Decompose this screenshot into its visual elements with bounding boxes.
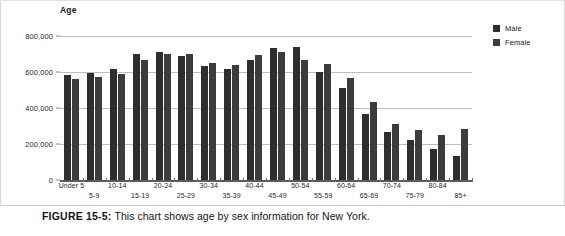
bar-female (141, 60, 148, 180)
bar-female (347, 78, 354, 180)
x-axis-tick-mark (266, 178, 267, 182)
panel-left-border (0, 0, 1, 206)
bar-female (95, 77, 102, 180)
bar-female (186, 54, 193, 180)
y-axis-tick-label: 200,000 (25, 140, 53, 149)
bar-male (384, 132, 391, 180)
bar-male (178, 56, 185, 180)
bar-male (87, 73, 94, 180)
bar-female (301, 60, 308, 180)
y-axis-tick-label: 600,000 (25, 68, 53, 77)
x-axis-label: 70-74 (383, 182, 401, 189)
x-axis-tick-mark (472, 178, 473, 182)
bar-female (164, 54, 171, 180)
figure-caption-text: This chart shows age by sex information … (114, 210, 369, 222)
bar-male (201, 66, 208, 180)
chart-title: Age (60, 5, 77, 15)
bar-male (270, 48, 277, 180)
bar-male (64, 75, 71, 180)
x-axis-tick-mark (129, 178, 130, 182)
bar-male (133, 54, 140, 180)
x-axis-tick-mark (220, 178, 221, 182)
x-axis-label: 85+ (454, 192, 466, 199)
bar-male (362, 114, 369, 180)
bar-male (339, 88, 346, 180)
x-axis-tick-mark (380, 178, 381, 182)
x-axis-tick-mark (152, 178, 153, 182)
x-axis-label: 60-64 (337, 182, 355, 189)
x-axis-label: 30-34 (200, 182, 218, 189)
x-axis-label: 75-79 (406, 192, 424, 199)
x-axis-tick-mark (403, 178, 404, 182)
x-axis-label: 25-29 (177, 192, 195, 199)
x-axis-label: Under 5 (59, 182, 85, 189)
x-axis-label: 80-84 (428, 182, 446, 189)
figure-caption-label: FIGURE 15-5: (42, 210, 112, 222)
bar-female (324, 64, 331, 180)
bar-male (407, 140, 414, 180)
bar-female (438, 135, 445, 180)
bar-female (255, 55, 262, 180)
bar-male (293, 47, 300, 180)
x-axis-tick-mark (426, 178, 427, 182)
bar-female (278, 52, 285, 180)
x-axis-tick-mark (358, 178, 359, 182)
x-axis-labels: Under 55-910-1415-1920-2425-2930-3435-39… (60, 182, 472, 206)
bar-male (110, 69, 117, 180)
x-axis-label: 35-39 (222, 192, 240, 199)
x-axis-tick-mark (243, 178, 244, 182)
plot-area: 800,000600,000400,000200,0000 (60, 36, 472, 180)
x-axis-tick-mark (312, 178, 313, 182)
bar-female (209, 63, 216, 180)
bar-male (453, 156, 460, 180)
x-axis-tick-mark (197, 178, 198, 182)
bar-male (247, 60, 254, 180)
chart-legend: Male Female (493, 24, 531, 52)
bar-male (430, 149, 437, 180)
legend-label-female: Female (505, 38, 531, 47)
bar-female (118, 74, 125, 180)
x-axis-label: 5-9 (89, 192, 99, 199)
x-axis-label: 10-14 (108, 182, 126, 189)
bar-female (415, 130, 422, 180)
bar-male (156, 52, 163, 180)
x-axis-label: 65-69 (360, 192, 378, 199)
legend-label-male: Male (505, 24, 522, 33)
bars-group (60, 36, 472, 180)
panel-top-border (0, 0, 565, 1)
bar-female (370, 102, 377, 180)
x-axis-tick-mark (106, 178, 107, 182)
x-axis-label: 15-19 (131, 192, 149, 199)
legend-item-male[interactable]: Male (493, 24, 531, 33)
x-axis-label: 50-54 (291, 182, 309, 189)
y-axis-tick-label: 0 (49, 176, 53, 185)
figure-caption: FIGURE 15-5: This chart shows age by sex… (42, 210, 370, 222)
x-axis-tick-mark (449, 178, 450, 182)
figure-container: Age 800,000600,000400,000200,0000 Under … (0, 0, 565, 236)
legend-swatch-female-icon (493, 39, 500, 46)
legend-item-female[interactable]: Female (493, 38, 531, 47)
x-axis-label: 20-24 (154, 182, 172, 189)
y-axis-tick-label: 400,000 (25, 104, 53, 113)
bar-female (232, 65, 239, 180)
x-axis-label: 45-49 (268, 192, 286, 199)
y-axis-tick-label: 800,000 (25, 32, 53, 41)
bar-male (316, 72, 323, 180)
x-axis-tick-mark (335, 178, 336, 182)
bar-male (224, 69, 231, 180)
x-axis-label: 55-59 (314, 192, 332, 199)
bar-female (72, 79, 79, 180)
x-axis-tick-mark (174, 178, 175, 182)
legend-swatch-male-icon (493, 25, 500, 32)
x-axis-tick-mark (289, 178, 290, 182)
bar-female (461, 129, 468, 180)
x-axis-label: 40-44 (245, 182, 263, 189)
bar-female (392, 124, 399, 180)
